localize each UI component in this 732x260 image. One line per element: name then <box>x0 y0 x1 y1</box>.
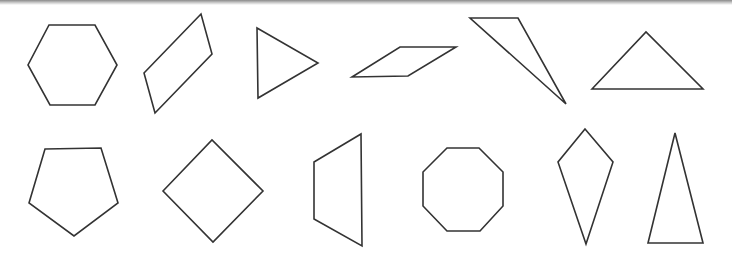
isosceles-triangle-tall <box>648 133 703 243</box>
triangle <box>592 32 703 89</box>
trapezoid <box>314 134 362 246</box>
pentagon <box>29 148 118 236</box>
parallelogram <box>144 14 212 113</box>
square-rotated <box>163 140 263 242</box>
rhombus-flat <box>352 47 456 77</box>
obtuse-triangle <box>470 18 566 104</box>
octagon <box>423 148 503 231</box>
shapes-diagram <box>0 0 732 260</box>
kite <box>558 129 613 244</box>
hexagon <box>28 25 117 105</box>
triangle-right-pointing <box>257 28 318 98</box>
